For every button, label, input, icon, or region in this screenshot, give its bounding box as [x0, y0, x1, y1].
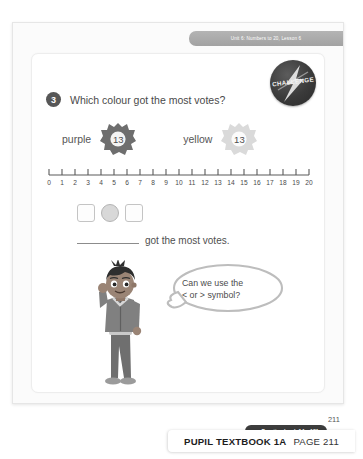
speech-bubble-line2: < or > symbol? [182, 289, 278, 301]
answer-blank-input[interactable] [77, 234, 139, 244]
comparison-right-box[interactable] [125, 204, 143, 222]
vote-count-purple: 13 [99, 122, 137, 156]
page-number: 211 [328, 415, 340, 424]
challenge-badge: CHALLENGE [270, 60, 316, 106]
page-sheet: Unit 6: Numbers to 20, Lesson 6 CHALLENG… [12, 22, 344, 404]
character-illustration [80, 260, 166, 390]
screenshot-root: Unit 6: Numbers to 20, Lesson 6 CHALLENG… [0, 0, 363, 459]
vote-label-purple: purple [62, 133, 91, 145]
comparison-row [77, 204, 143, 222]
unit-banner-label: Unit 6: Numbers to 20, Lesson 6 [189, 31, 343, 46]
vote-count-yellow: 13 [220, 122, 258, 156]
blank-sentence-text: got the most votes. [145, 235, 230, 246]
number-line-labels: 0 1 2 3 4 5 6 7 8 9 10 11 12 13 14 15 16 [44, 179, 314, 191]
footer-page-label: PAGE 211 [293, 436, 339, 447]
question-row: 3 Which colour got the most votes? [46, 92, 225, 107]
blank-sentence-row: got the most votes. [77, 234, 230, 246]
vote-badge-yellow: 13 [220, 122, 258, 156]
speech-bubble: Can we use the < or > symbol? [160, 262, 286, 320]
lesson-card: CHALLENGE 3 Which colour got the most vo… [31, 53, 325, 393]
number-line-axis [44, 164, 314, 180]
number-line: 0 1 2 3 4 5 6 7 8 9 10 11 12 13 14 15 16 [44, 164, 314, 194]
tick-label-20: 20 [301, 179, 317, 186]
vote-badge-purple: 13 [99, 122, 137, 156]
vote-label-yellow: yellow [183, 133, 212, 145]
vote-group-yellow: yellow 13 [183, 122, 258, 156]
comparison-left-box[interactable] [77, 204, 95, 222]
question-number: 3 [46, 92, 61, 107]
question-text: Which colour got the most votes? [70, 94, 225, 106]
footer-bar: PUPIL TEXTBOOK 1A PAGE 211 [168, 430, 355, 452]
unit-banner: Unit 6: Numbers to 20, Lesson 6 [189, 31, 343, 46]
footer-title: PUPIL TEXTBOOK 1A [184, 436, 286, 447]
vote-group-purple: purple 13 [62, 122, 137, 156]
boy-thinking-character [80, 260, 166, 390]
comparison-symbol-slot[interactable] [101, 204, 119, 222]
vote-row: purple 13 yellow [62, 122, 310, 156]
speech-bubble-text: Can we use the < or > symbol? [182, 277, 278, 301]
speech-bubble-line1: Can we use the [182, 277, 278, 289]
